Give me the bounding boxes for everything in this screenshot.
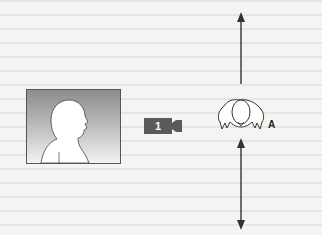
diagram: 1 A <box>0 0 322 235</box>
arrow-up-icon <box>233 10 249 86</box>
subject-label: A <box>268 119 275 130</box>
frame-preview <box>26 89 121 164</box>
person-top-view-icon <box>214 96 268 132</box>
arrow-double-vertical-icon <box>233 136 249 232</box>
camera-number: 1 <box>144 118 172 134</box>
profile-silhouette-icon <box>27 90 120 163</box>
